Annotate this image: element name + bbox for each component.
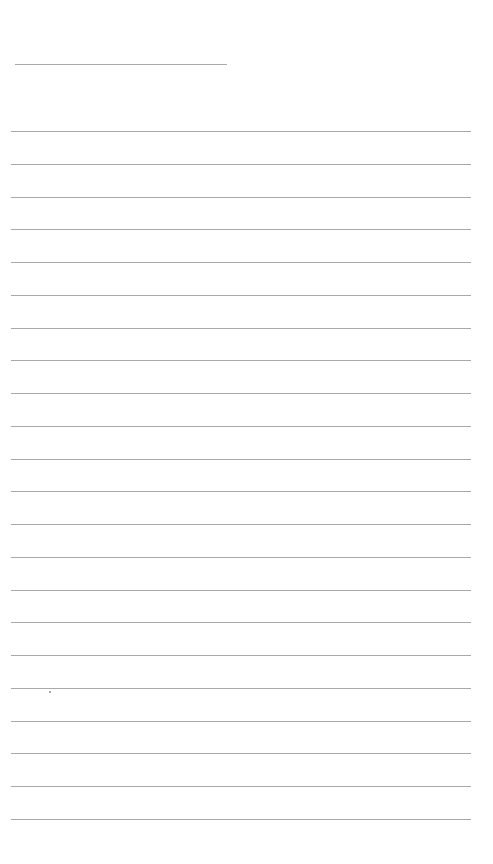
ruled-line xyxy=(11,557,471,558)
ruled-line xyxy=(11,360,471,361)
ruled-line xyxy=(11,295,471,296)
ink-speck xyxy=(49,691,51,693)
ruled-line xyxy=(11,655,471,656)
ruled-line xyxy=(11,590,471,591)
ruled-line xyxy=(11,426,471,427)
lined-paper-page xyxy=(0,0,493,864)
ruled-line xyxy=(11,197,471,198)
ruled-line xyxy=(11,459,471,460)
ruled-line xyxy=(11,721,471,722)
header-name-line xyxy=(15,64,227,65)
ruled-line xyxy=(11,393,471,394)
ruled-line xyxy=(11,786,471,787)
ruled-line xyxy=(11,819,471,820)
ruled-line xyxy=(11,524,471,525)
ruled-line xyxy=(11,622,471,623)
ruled-line xyxy=(11,688,471,689)
ruled-line xyxy=(11,229,471,230)
ruled-line xyxy=(11,753,471,754)
ruled-line xyxy=(11,164,471,165)
ruled-line xyxy=(11,328,471,329)
ruled-line xyxy=(11,131,471,132)
ruled-line xyxy=(11,262,471,263)
ruled-line xyxy=(11,491,471,492)
